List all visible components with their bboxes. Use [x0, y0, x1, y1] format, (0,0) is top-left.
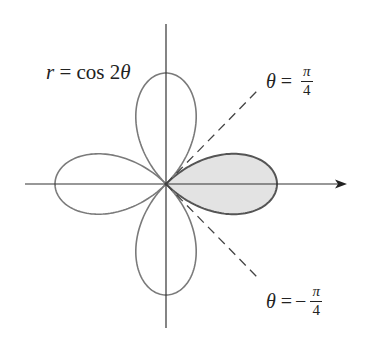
ray-lower-denominator: 4	[310, 302, 322, 319]
ray-lower-numerator: π	[310, 284, 322, 302]
equation-lhs: r	[46, 60, 54, 84]
ray-upper-label: θ = π 4	[266, 64, 313, 99]
ray-upper-var: θ	[266, 70, 276, 92]
ray-lower-equals: =	[281, 290, 292, 312]
ray-upper-fraction: π 4	[301, 64, 313, 99]
ray-upper-equals: =	[281, 70, 292, 92]
ray-upper-denominator: 4	[301, 82, 313, 99]
equation-label: r = cos 2θ	[46, 62, 131, 83]
ray-upper-numerator: π	[301, 64, 313, 82]
equation-rhs: cos 2	[77, 60, 121, 84]
equation-equals: =	[59, 60, 71, 84]
ray-lower-label: θ =− π 4	[266, 284, 322, 319]
ray-lower-sign: −	[295, 291, 306, 311]
equation-var: θ	[120, 60, 130, 84]
ray-lower-var: θ	[266, 290, 276, 312]
ray-lower-fraction: π 4	[310, 284, 322, 319]
